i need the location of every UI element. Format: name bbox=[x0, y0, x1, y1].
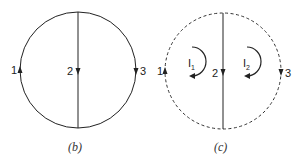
clockwise-arrow-icon bbox=[247, 47, 261, 76]
i1-label: I1 bbox=[188, 57, 195, 71]
branch-1-arrow-up-icon bbox=[163, 67, 168, 74]
clockwise-arrow-icon bbox=[192, 47, 206, 76]
branch-1-arrow-up-icon bbox=[18, 66, 23, 73]
caption-b: (b) bbox=[68, 140, 82, 154]
branch-2-label: 2 bbox=[67, 65, 73, 77]
i2-label: I2 bbox=[243, 57, 250, 71]
caption-c: (c) bbox=[214, 140, 227, 154]
loop-current-i2: I2 bbox=[243, 47, 261, 76]
loop-current-i1: I1 bbox=[188, 47, 206, 76]
branch-1-label: 1 bbox=[11, 64, 17, 76]
branch-3-label: 3 bbox=[285, 67, 291, 79]
branch-3-label: 3 bbox=[140, 65, 146, 77]
branch-1-label: 1 bbox=[157, 65, 163, 77]
branch-3-arrow-down-icon bbox=[134, 68, 139, 75]
figure-b: 1 2 3 (b) bbox=[11, 12, 146, 154]
branch-2-arrow-down-icon bbox=[76, 68, 81, 75]
network-diagram: 1 2 3 (b) 1 2 3 I1 I2 (c) bbox=[0, 0, 304, 158]
branch-3-arrow-down-icon bbox=[279, 69, 284, 76]
figure-c: 1 2 3 I1 I2 (c) bbox=[157, 13, 291, 154]
branch-2-arrow-down-icon bbox=[221, 69, 226, 76]
branch-2-label: 2 bbox=[212, 67, 218, 79]
